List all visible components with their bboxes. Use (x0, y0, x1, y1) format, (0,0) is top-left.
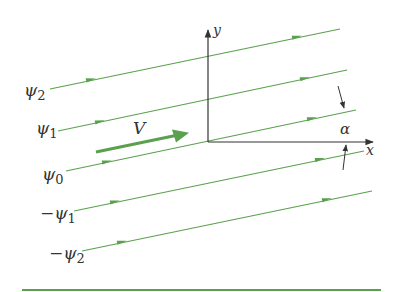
svg-text:−ψ1: −ψ1 (40, 203, 76, 226)
label-psi2: ψ2 (24, 80, 46, 103)
label-psi1: ψ1 (36, 118, 58, 141)
streamline-psi1 (58, 70, 347, 131)
angle-arrow-up (343, 145, 346, 170)
svg-text:−ψ2: −ψ2 (49, 243, 85, 266)
uniform-flow-diagram: V y x α ψ2 ψ1 ψ0 −ψ1 −ψ2 (0, 0, 398, 292)
angle-arrow-down (338, 86, 344, 108)
velocity-label: V (133, 118, 147, 138)
streamline-psi2 (50, 29, 340, 89)
x-axis-label: x (366, 142, 374, 158)
svg-text:ψ1: ψ1 (36, 118, 58, 141)
label-neg-psi2: −ψ2 (49, 243, 85, 266)
alpha-label: α (340, 120, 350, 138)
y-axis-label: y (212, 22, 222, 38)
label-neg-psi1: −ψ1 (40, 203, 76, 226)
svg-text:ψ2: ψ2 (24, 80, 46, 103)
svg-text:ψ0: ψ0 (42, 164, 64, 187)
label-psi0: ψ0 (42, 164, 64, 187)
